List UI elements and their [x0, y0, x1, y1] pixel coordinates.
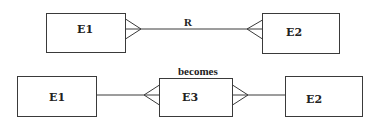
- crows-foot-e1-top-icon: [126, 19, 142, 39]
- entity-e2-top-label: E2: [286, 26, 302, 39]
- becomes-label: becomes: [178, 65, 218, 77]
- entity-e2-bottom: E2: [286, 77, 363, 117]
- entity-e1-bottom-label: E1: [49, 91, 65, 104]
- entity-e1-bottom: E1: [18, 77, 97, 117]
- top-diagram: E1 R E2: [47, 14, 340, 54]
- entity-e1-top-label: E1: [77, 23, 93, 36]
- entity-e2-top: E2: [263, 14, 340, 54]
- bottom-diagram: E1 E3 becomes E2: [18, 65, 363, 117]
- er-diagram: E1 R E2 E1: [0, 0, 378, 124]
- entity-e2-bottom-label: E2: [306, 93, 322, 106]
- entity-e3: E3: [160, 79, 233, 117]
- entity-e1-top: E1: [47, 14, 126, 53]
- crows-foot-e2-top-icon: [247, 20, 263, 39]
- relationship-label-r: R: [184, 16, 193, 28]
- entity-e3-label: E3: [182, 91, 198, 104]
- crows-foot-e3-right-icon: [233, 85, 249, 105]
- crows-foot-e3-left-icon: [144, 85, 160, 105]
